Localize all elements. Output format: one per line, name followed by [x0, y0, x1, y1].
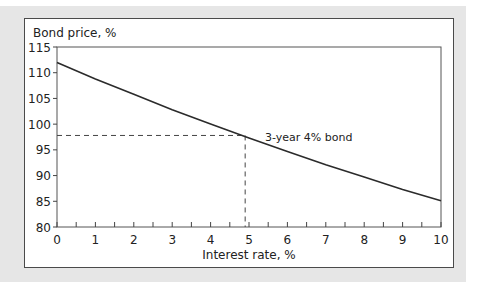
y-tick-label: 105 — [28, 92, 51, 106]
x-tick-label: 5 — [245, 233, 253, 247]
x-tick-label: 2 — [130, 233, 138, 247]
y-tick-label: 90 — [36, 169, 51, 183]
bond-price-curve — [57, 62, 441, 200]
plot-area-box — [57, 47, 441, 227]
x-tick-label: 1 — [92, 233, 100, 247]
x-tick-label: 6 — [284, 233, 292, 247]
x-tick-label: 10 — [433, 233, 448, 247]
y-tick-label: 85 — [36, 195, 51, 209]
y-tick-label: 110 — [28, 66, 51, 80]
curve-label: 3-year 4% bond — [265, 131, 352, 144]
bond-price-chart: 80859095100105110115012345678910 Bond pr… — [0, 0, 479, 285]
x-tick-label: 8 — [360, 233, 368, 247]
y-tick-label: 100 — [28, 118, 51, 132]
dashed-guides — [57, 135, 245, 227]
x-tick-label: 9 — [399, 233, 407, 247]
y-tick-label: 95 — [36, 143, 51, 157]
y-tick-label: 80 — [36, 221, 51, 235]
axes: 80859095100105110115012345678910 — [28, 41, 449, 248]
x-axis-title: Interest rate, % — [202, 248, 295, 262]
y-tick-label: 115 — [28, 41, 51, 55]
x-tick-label: 7 — [322, 233, 330, 247]
y-axis-title: Bond price, % — [33, 26, 117, 40]
x-tick-label: 4 — [207, 233, 215, 247]
x-tick-label: 0 — [53, 233, 61, 247]
x-tick-label: 3 — [168, 233, 176, 247]
